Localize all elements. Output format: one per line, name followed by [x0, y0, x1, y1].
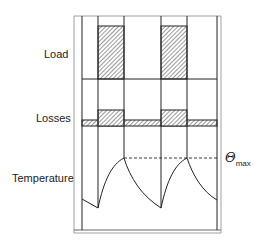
load-block-1 [98, 26, 124, 79]
losses-blocks [82, 110, 217, 126]
load-losses-temperature-diagram [0, 0, 261, 245]
load-blocks [98, 26, 187, 79]
losses-block-2 [161, 110, 187, 126]
load-block-2 [161, 26, 187, 79]
losses-block-1 [98, 110, 124, 126]
temperature-curve [82, 158, 217, 208]
